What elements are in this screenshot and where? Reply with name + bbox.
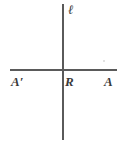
horizontal-line-a-prime-a [10,69,117,71]
label-point-a: A [104,75,113,88]
label-point-a-prime: A′ [11,75,23,88]
geometry-figure: ℓ A′ R A [0,0,127,147]
label-line-l: ℓ [68,3,73,16]
scan-speck-artifact [103,60,105,62]
label-point-r: R [65,75,74,88]
vertical-line-l [62,4,64,140]
